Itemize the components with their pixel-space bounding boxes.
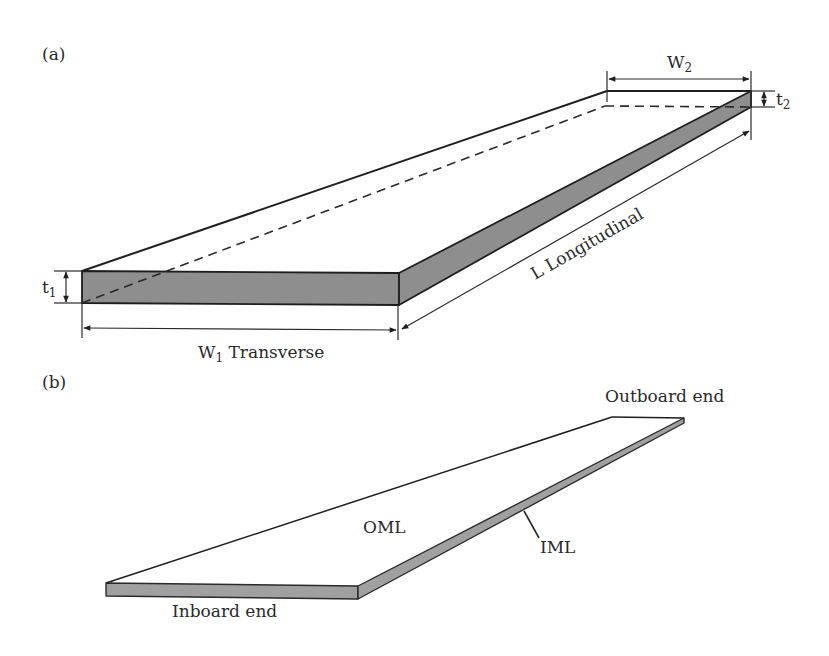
panel-b-plate <box>106 417 684 599</box>
top-left-edge <box>82 91 607 271</box>
inboard-face <box>82 271 399 305</box>
t2-label: t2 <box>776 89 790 112</box>
iml-leader-line <box>524 511 539 538</box>
side-face <box>399 91 751 305</box>
w2-label: W2 <box>667 52 692 75</box>
w1-arrow <box>84 328 396 330</box>
panel-b-label: (b) <box>42 372 66 392</box>
length-dimension: L Longitudinal <box>402 131 749 329</box>
w2-dimension: W2 <box>607 52 751 140</box>
t1-label: t1 <box>42 277 56 300</box>
w1-dimension: W1 Transverse <box>82 303 398 365</box>
inboard-end-label: Inboard end <box>172 601 277 621</box>
iml-label: IML <box>540 537 575 557</box>
tapered-laminate-diagram: (a) W2 t2 t1 <box>0 0 829 656</box>
panel-a-plate <box>82 91 751 305</box>
t1-dimension: t1 <box>42 271 82 303</box>
inboard-face-b <box>106 583 358 599</box>
t2-dimension: t2 <box>751 89 790 112</box>
oml-label: OML <box>363 517 406 537</box>
panel-a-label: (a) <box>42 44 65 64</box>
outboard-edge-b <box>612 417 684 418</box>
side-face-b <box>358 418 684 599</box>
outboard-end-label: Outboard end <box>605 386 724 406</box>
w1-label: W1 Transverse <box>198 342 324 365</box>
length-arrow <box>402 131 749 329</box>
hidden-outboard-edge <box>605 106 751 107</box>
